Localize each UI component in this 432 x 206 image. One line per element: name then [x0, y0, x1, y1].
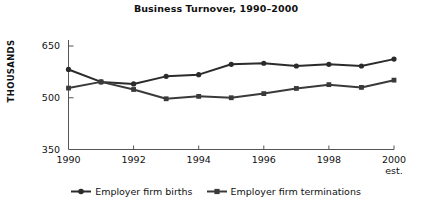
legend-circle-marker-icon — [71, 187, 91, 196]
series-births — [66, 57, 397, 87]
data-point-marker — [359, 63, 364, 68]
legend-label: Employer firm terminations — [231, 186, 361, 197]
legend-label: Employer firm births — [95, 186, 192, 197]
data-point-marker — [164, 96, 169, 101]
x-axis-ticks — [134, 146, 394, 150]
x-tick-label: 1992 — [111, 154, 157, 165]
x-tick-label: 1996 — [241, 154, 287, 165]
x-tick-label: 1990 — [46, 154, 92, 165]
data-point-marker — [294, 63, 299, 68]
plot-area — [0, 0, 432, 206]
y-tick-label: 500 — [26, 92, 60, 103]
data-point-marker — [261, 91, 266, 96]
y-tick-label: 650 — [26, 40, 60, 51]
data-point-marker — [261, 61, 266, 66]
x-axis-estimate-note: est. — [371, 165, 417, 176]
data-point-marker — [99, 79, 104, 84]
series-terminations — [66, 78, 396, 101]
data-point-marker — [359, 85, 364, 90]
data-point-marker — [229, 62, 234, 67]
legend-item[interactable]: Employer firm terminations — [207, 186, 361, 197]
chart-figure: Business Turnover, 1990–2000 THOUSANDS 3… — [0, 0, 432, 206]
data-point-marker — [327, 82, 332, 87]
data-point-marker — [131, 81, 136, 86]
data-series-layer — [66, 57, 397, 102]
data-point-marker — [391, 57, 396, 62]
x-tick-label: 2000 — [371, 154, 417, 165]
data-point-marker — [196, 94, 201, 99]
data-point-marker — [326, 62, 331, 67]
data-point-marker — [196, 72, 201, 77]
data-point-marker — [164, 74, 169, 79]
legend-item[interactable]: Employer firm births — [71, 186, 192, 197]
data-point-marker — [66, 86, 71, 91]
data-point-marker — [294, 86, 299, 91]
data-point-marker — [229, 95, 234, 100]
data-point-marker — [131, 87, 136, 92]
chart-legend: Employer firm birthsEmployer firm termin… — [0, 186, 432, 197]
legend-square-marker-icon — [207, 187, 227, 196]
x-tick-label: 1994 — [176, 154, 222, 165]
data-point-marker — [66, 67, 71, 72]
data-point-marker — [392, 78, 397, 83]
x-tick-label: 1998 — [306, 154, 352, 165]
